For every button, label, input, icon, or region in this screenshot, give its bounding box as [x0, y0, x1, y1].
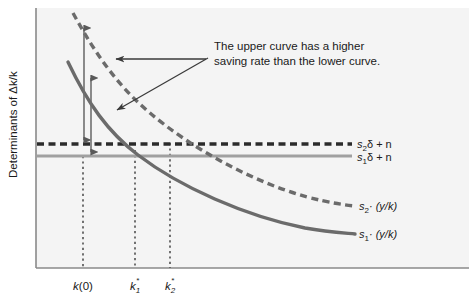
svg-text:saving rate than the lower cur: saving rate than the lower curve.	[214, 55, 380, 67]
s2-dep-label-rest: δ + n	[367, 138, 392, 150]
leader-arrow-to-s1-curve	[117, 58, 208, 110]
annotation-line-2: saving rate than the lower curve.	[214, 55, 380, 67]
series-label-s1-curve: s1· (y/k)	[359, 228, 397, 243]
x-tick-k2-sup: *	[171, 276, 175, 285]
x-tick-label-k1-star: k1*	[130, 276, 140, 295]
s1-curve-label-rest: · (y/k)	[369, 228, 397, 240]
svg-text:s1· (y/k): s1· (y/k)	[359, 228, 397, 243]
x-tick-k1-sub: 1	[136, 286, 140, 295]
x-tick-labels: k(0) k1* k2*	[73, 276, 176, 295]
figure-container: Determinants of Δk/k	[0, 0, 471, 306]
x-tick-k0-rest: (0)	[79, 280, 93, 292]
x-tick-k1-sup: *	[136, 276, 140, 285]
x-tick-k2-sub: 2	[170, 286, 176, 295]
x-tick-label-k2-star: k2*	[165, 276, 176, 295]
svg-text:s1δ + n: s1δ + n	[357, 151, 392, 166]
s1-curve	[68, 62, 355, 234]
y-axis-label-text: Determinants of Δk/k	[7, 71, 19, 178]
x-tick-label-k0: k(0)	[73, 280, 93, 292]
y-axis-label: Determinants of Δk/k	[7, 71, 19, 178]
svg-text:Determinants of Δk/k: Determinants of Δk/k	[7, 71, 19, 178]
annotation-line-1: The upper curve has a higher	[214, 40, 364, 52]
chart-canvas: Determinants of Δk/k	[0, 0, 471, 306]
series-label-s2-curve: s2· (y/k)	[359, 200, 397, 215]
series-label-s1-depreciation: s1δ + n	[357, 151, 392, 166]
s2-curve-label-rest: · (y/k)	[369, 200, 397, 212]
vertical-guides	[83, 143, 170, 268]
saving-rate-annotation: The upper curve has a higher saving rate…	[214, 40, 380, 67]
svg-text:The upper curve has a higher: The upper curve has a higher	[214, 40, 364, 52]
s1-dep-label-rest: δ + n	[367, 151, 392, 163]
svg-text:s2· (y/k): s2· (y/k)	[359, 200, 397, 215]
annotation-leader-arrows	[116, 58, 208, 110]
depreciation-lines	[37, 144, 352, 156]
